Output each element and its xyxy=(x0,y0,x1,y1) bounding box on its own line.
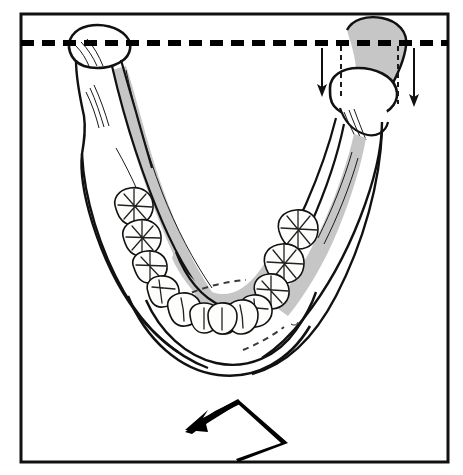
figure-root: Mandible — occlusal view showing unilate… xyxy=(0,0,463,475)
tooth-right-lateral-incisor xyxy=(208,303,237,334)
tooth-left-molar-2 xyxy=(123,220,161,256)
mandible-displacement-diagram: Mandible — occlusal view showing unilate… xyxy=(0,0,463,475)
